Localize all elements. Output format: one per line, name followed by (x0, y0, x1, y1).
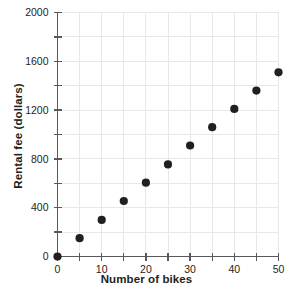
scatter-plot-figure: 040080012001600200001020304050 Number of… (0, 0, 293, 294)
y-tick-label: 800 (31, 153, 49, 165)
data-point (76, 234, 84, 242)
data-point (164, 160, 172, 168)
y-tick-label: 1600 (25, 55, 49, 67)
y-tick-label: 1200 (25, 104, 49, 116)
data-point (208, 123, 216, 131)
tick-marks (54, 13, 279, 261)
data-point (186, 141, 194, 149)
y-axis-title: Rental fee (dollars) (12, 61, 24, 211)
data-point (274, 68, 282, 76)
plot-canvas: 040080012001600200001020304050 (0, 0, 293, 294)
gridlines (58, 13, 279, 257)
data-point (98, 216, 106, 224)
y-tick-label: 400 (31, 201, 49, 213)
data-point (53, 252, 61, 260)
x-axis-title: Number of bikes (0, 273, 293, 285)
data-point (120, 197, 128, 205)
y-tick-label: 0 (43, 250, 49, 262)
data-point (230, 105, 238, 113)
y-tick-label: 2000 (25, 6, 49, 18)
data-point (252, 86, 260, 94)
tick-labels: 040080012001600200001020304050 (25, 6, 284, 274)
data-point (142, 179, 150, 187)
